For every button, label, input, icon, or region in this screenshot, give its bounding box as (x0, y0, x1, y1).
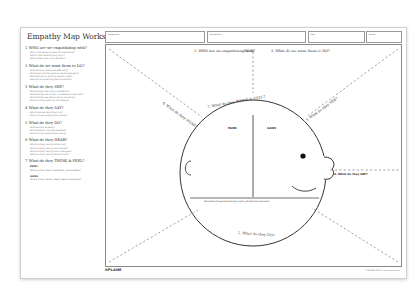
pains-text: What are their fears, frustrations, and … (25, 169, 103, 172)
date-label: Date (311, 33, 316, 35)
version-label: Version (369, 33, 376, 35)
divider-do-right (312, 208, 398, 262)
copyright-text: ©XPLANE 2017 | www.xplane.com (365, 269, 400, 271)
eye (300, 153, 305, 158)
designed-for-label: Designed for (210, 33, 222, 35)
goal-label: GOAL (244, 49, 255, 53)
pains-label: PAINS (228, 127, 237, 130)
instructions-column: 1WHO are we empathizing with? Who is the… (25, 46, 103, 185)
left-ear (185, 161, 191, 175)
mouth (292, 186, 316, 191)
section-do: 5What do they DO? What do they do today?… (25, 121, 103, 135)
gains-label: GAINS (267, 127, 276, 130)
question: What are they watching and reading? (25, 99, 103, 102)
section-see: 3What do they SEE? What do they see in t… (25, 85, 103, 102)
question: What are they hearing second-hand? (25, 153, 103, 156)
gains-text: What are their wants, needs, hopes and d… (25, 178, 103, 181)
section-who: 1WHO are we empathizing with? Who is the… (25, 46, 103, 60)
say-label: 4. What do they SAY? (334, 172, 368, 176)
date-field[interactable]: Date (308, 31, 365, 43)
empathy-map-canvas[interactable]: 1. WHO are we empathizing with? GOAL 2. … (105, 44, 402, 267)
xplane-logo: XPLANE (105, 268, 122, 272)
question: What can we imagine them saying? (25, 114, 103, 117)
section-say: 4What do they SAY? What have we heard th… (25, 106, 103, 117)
question: What can we imagine them doing? (25, 132, 103, 135)
divider-do-left (109, 210, 198, 262)
section-heading: 7What do they THINK & FEEL? (25, 159, 103, 164)
designed-by-label: Designed by (108, 33, 120, 35)
question: What is their role in the situation? (25, 57, 103, 60)
divider-hear-top (109, 49, 202, 117)
section-think-feel: 7What do they THINK & FEEL? PAINS What a… (25, 159, 103, 181)
question: How will we know they were successful? (25, 78, 103, 81)
section-do-want: 2What do we want them to DO? What do the… (25, 64, 103, 81)
behavior-question: What other thoughts & feelings might mot… (204, 200, 270, 202)
worksheet-page: Empathy Map Worksheet Designed by Design… (20, 27, 407, 279)
designed-by-field[interactable]: Designed by (105, 31, 205, 43)
designed-for-field[interactable]: Designed for (207, 31, 306, 43)
do-want-label: 2. What do we want them to DO? (271, 49, 330, 53)
version-field[interactable]: Version (366, 31, 402, 43)
section-hear: 6What do they HEAR? What are they hearin… (25, 138, 103, 155)
